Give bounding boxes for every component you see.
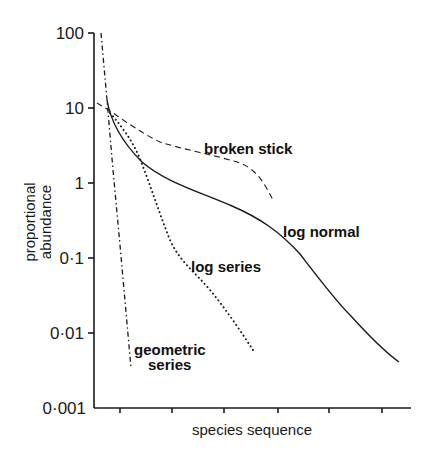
y-tick-label: 10 xyxy=(65,99,84,118)
series-labels: broken stick log normal log series geome… xyxy=(134,140,360,373)
y-tick-label: 0·001 xyxy=(43,399,86,418)
series-curves xyxy=(97,33,399,368)
log-series-label: log series xyxy=(191,258,261,275)
y-tick-label: 100 xyxy=(56,24,84,43)
broken-stick-label: broken stick xyxy=(204,140,293,157)
x-axis-title: species sequence xyxy=(192,421,312,438)
geometric-series-label-line2: series xyxy=(148,356,191,373)
y-axis-title-line2: abundance xyxy=(37,185,54,259)
y-tick-label: 0·01 xyxy=(50,324,84,343)
log-normal-label: log normal xyxy=(283,223,360,240)
rank-abundance-chart: 100 10 1 0·1 0·01 0·001 proportional abu… xyxy=(0,0,433,452)
y-tick-label: 0·1 xyxy=(59,249,84,268)
y-axis-title: proportional abundance xyxy=(21,182,54,261)
y-tick-label: 1 xyxy=(75,174,84,193)
y-axis-title-line1: proportional xyxy=(21,182,38,261)
geometric-series-line xyxy=(101,33,131,368)
